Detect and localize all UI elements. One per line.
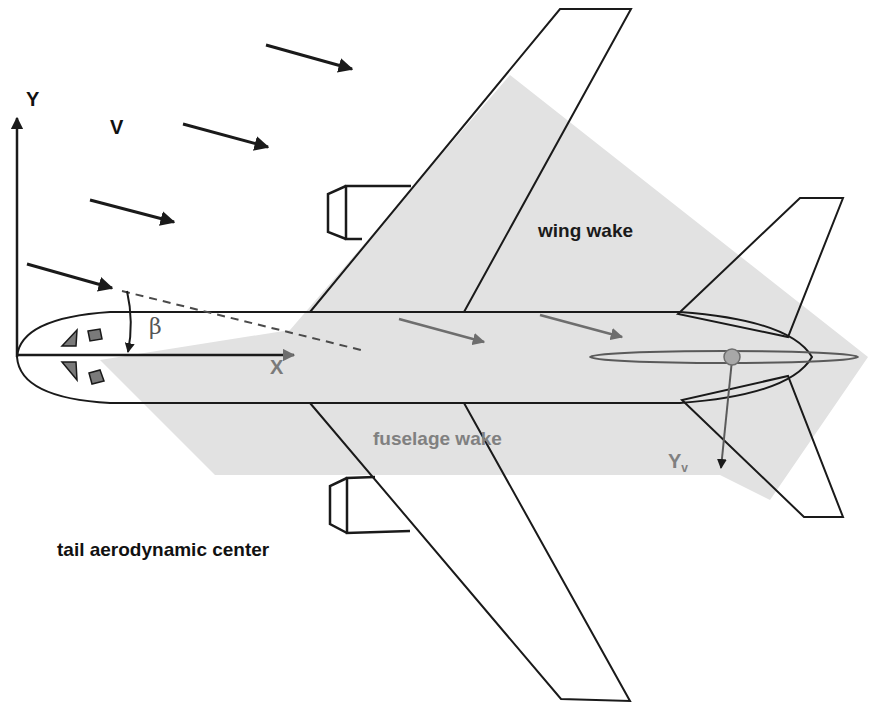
freestream-arrow — [27, 264, 112, 288]
lower-engine — [330, 477, 410, 533]
side-force-subscript: v — [681, 461, 688, 475]
wing-wake-label: wing wake — [537, 220, 633, 241]
freestream-arrow — [183, 124, 268, 147]
tail-ac-marker — [724, 349, 740, 365]
aircraft-sideslip-diagram: Y V X β wing wake fuselage wake Yv tail … — [0, 0, 869, 723]
y-axis-label: Y — [26, 88, 40, 110]
x-axis-label: X — [270, 356, 284, 378]
beta-angle-arc — [127, 291, 131, 352]
velocity-label: V — [110, 116, 124, 138]
freestream-arrows — [27, 45, 352, 288]
fuselage-wake-label: fuselage wake — [373, 428, 502, 449]
cockpit-windows — [62, 329, 104, 384]
freestream-arrow — [266, 45, 352, 69]
beta-label: β — [149, 314, 162, 339]
freestream-arrow — [90, 200, 174, 222]
tail-ac-label: tail aerodynamic center — [57, 539, 270, 560]
side-force-symbol: Y — [668, 450, 682, 472]
